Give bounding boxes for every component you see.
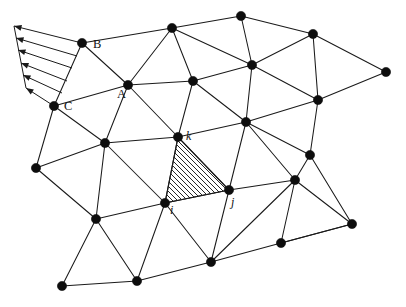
mesh-edge [128, 85, 178, 137]
hatch-stroke [159, 122, 235, 198]
mesh-edge [62, 281, 137, 286]
mesh-edge [36, 106, 54, 168]
mesh-edge [172, 16, 241, 28]
mesh-node [276, 238, 285, 247]
node-label-B: B [93, 38, 101, 51]
mesh-node [91, 214, 100, 223]
mesh-node [206, 257, 215, 266]
mesh-edge [211, 190, 229, 262]
mesh-edge [313, 34, 318, 100]
mesh-edge [128, 81, 193, 85]
mesh-node [188, 76, 197, 85]
mesh-edge [281, 180, 295, 243]
mesh-node [49, 101, 58, 110]
highlighted-element-hatch [159, 62, 235, 278]
mesh-edge [96, 219, 137, 281]
mesh-node [167, 23, 176, 32]
mesh-edge [241, 16, 252, 65]
mesh-edge [193, 81, 246, 122]
node-label-k: k [186, 130, 191, 142]
mesh-node [224, 185, 233, 194]
mesh-node [31, 163, 40, 172]
mesh-edge [310, 100, 318, 155]
mesh-node [347, 219, 356, 228]
mesh-edge [246, 100, 318, 122]
mesh-edge [82, 43, 128, 85]
mesh-edge [229, 180, 295, 190]
hatch-stroke [159, 187, 235, 263]
mesh-edge [62, 219, 96, 286]
mesh-node [247, 60, 256, 69]
mesh-nodes [31, 11, 390, 290]
mesh-node [132, 276, 141, 285]
mesh-edge [281, 224, 352, 243]
mesh-edge [211, 243, 281, 262]
load-back-line [14, 26, 26, 88]
hatch-stroke [159, 107, 235, 183]
mesh-node [305, 150, 314, 159]
hatch-stroke [159, 182, 235, 258]
mesh-node [57, 281, 66, 290]
mesh-edge [295, 180, 352, 224]
mesh-edge [246, 122, 295, 180]
hatch-stroke [159, 82, 235, 158]
mesh-edge [310, 155, 352, 224]
mesh-edge [313, 34, 386, 72]
mesh-node [160, 198, 169, 207]
mesh-edge [128, 28, 172, 85]
hatch-stroke [159, 157, 235, 233]
mesh-edge [137, 203, 165, 281]
mesh-edge [229, 122, 246, 190]
mesh-edge [54, 106, 105, 143]
mesh-edges [36, 16, 386, 286]
mesh-edge [318, 72, 386, 100]
mesh-node [173, 132, 182, 141]
node-label-j: j [231, 196, 234, 208]
mesh-edge [211, 180, 295, 262]
mesh-node [308, 29, 317, 38]
mesh-edge [252, 65, 318, 100]
mesh-edge [96, 143, 105, 219]
mesh-edge [54, 43, 82, 106]
mesh-edge [193, 65, 252, 81]
hatch-stroke [159, 97, 235, 173]
mesh-node [100, 138, 109, 147]
mesh-edge [252, 34, 313, 65]
mesh-node [77, 38, 86, 47]
load-arrow-shaft [16, 38, 77, 56]
mesh-edge [246, 65, 252, 122]
mesh-edge [137, 262, 211, 281]
node-label-C: C [64, 100, 72, 113]
mesh-edge [96, 203, 165, 219]
hatch-stroke [159, 77, 235, 153]
mesh-edge [36, 143, 105, 168]
mesh-edge [36, 168, 96, 219]
node-label-A: A [117, 88, 126, 101]
hatch-stroke [159, 102, 235, 178]
hatch-stroke [159, 87, 235, 163]
mesh-figure: A B C i j k [0, 0, 406, 307]
mesh-node [381, 67, 390, 76]
mesh-node [241, 117, 250, 126]
node-label-i: i [170, 204, 173, 216]
mesh-node [290, 175, 299, 184]
mesh-edge [105, 143, 165, 203]
mesh-node [236, 11, 245, 20]
mesh-edge [241, 16, 313, 34]
mesh-canvas [0, 0, 406, 307]
mesh-edge [246, 122, 310, 155]
mesh-node [313, 95, 322, 104]
load-arrow-head [26, 88, 34, 94]
mesh-edge [105, 137, 178, 143]
